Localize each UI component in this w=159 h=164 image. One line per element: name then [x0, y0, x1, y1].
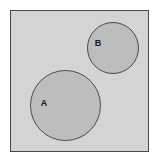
venn-diagram-figure: B A [0, 0, 159, 164]
set-label-b: B [95, 38, 102, 48]
set-label-a: A [41, 98, 48, 108]
venn-diagram-canvas: B A [0, 0, 159, 164]
